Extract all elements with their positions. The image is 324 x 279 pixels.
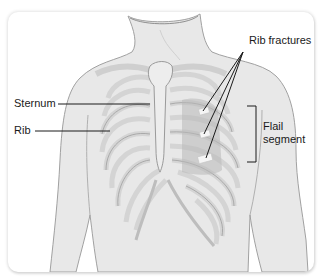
label-sternum: Sternum: [14, 97, 56, 110]
label-rib-fractures: Rib fractures: [249, 34, 311, 47]
label-flail: Flail: [263, 120, 283, 133]
label-segment: segment: [263, 133, 305, 146]
label-rib: Rib: [14, 124, 31, 137]
